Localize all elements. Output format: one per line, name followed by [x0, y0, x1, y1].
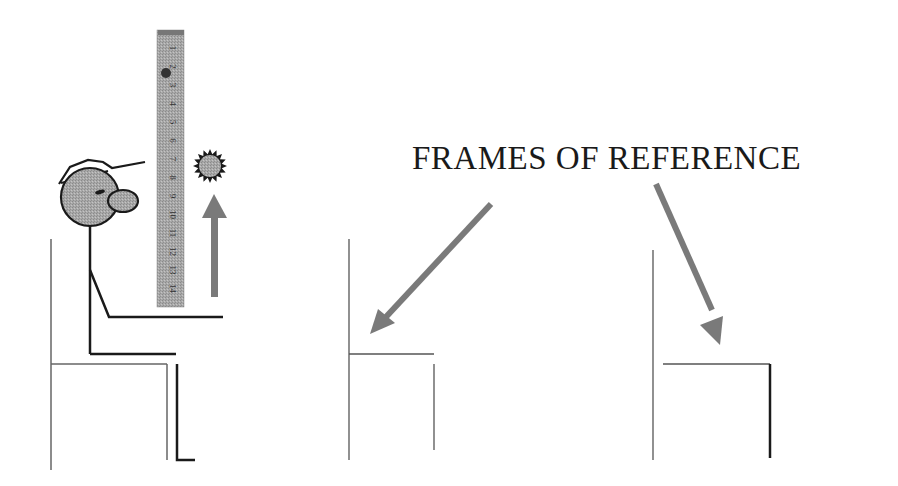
ruler-label: 7: [168, 157, 178, 162]
ruler-label: 6: [168, 138, 178, 143]
ruler-label: 3: [168, 83, 178, 88]
ruler: 1234567891011121314: [157, 30, 184, 307]
ruler-label: 11: [168, 229, 178, 238]
frame-chair-2: [653, 250, 770, 460]
ruler-label: 10: [168, 210, 178, 220]
ruler-label: 2: [168, 64, 178, 69]
ruler-label: 12: [168, 247, 178, 256]
ruler-label: 5: [168, 120, 178, 125]
nose-icon: [108, 190, 138, 212]
ruler-label: 9: [168, 194, 178, 199]
diagram-canvas: 1234567891011121314: [0, 0, 898, 486]
ruler-label: 1: [168, 46, 178, 51]
sun-ball-icon: [193, 149, 227, 183]
ruler-label: 8: [168, 175, 178, 180]
person-figure: [59, 160, 223, 460]
arrow-to-frame-2-icon: [656, 184, 723, 345]
ruler-dot-icon: [161, 68, 171, 78]
ruler-label: 13: [168, 266, 178, 276]
upward-arrow-icon: [202, 194, 227, 297]
ruler-label: 14: [168, 284, 178, 294]
frame-chair-1: [349, 239, 434, 460]
ruler-label: 4: [168, 101, 178, 106]
diagram-title: FRAMES OF REFERENCE: [412, 140, 801, 177]
arrow-to-frame-1-icon: [370, 204, 491, 334]
